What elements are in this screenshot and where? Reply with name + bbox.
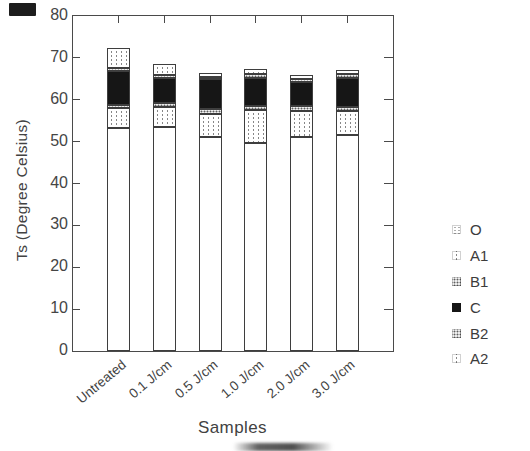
bar-0-1-j-cm: [153, 16, 176, 351]
bar-segment-a1: [199, 114, 222, 136]
bar-segment-b2: [153, 75, 176, 78]
y-tick: [73, 99, 80, 100]
y-tick: [384, 141, 393, 142]
bar-segment-c: [153, 78, 176, 103]
bar-segment-a1: [336, 111, 359, 135]
x-category-label: 3.0 J/cm: [309, 357, 358, 401]
y-tick: [73, 267, 80, 268]
bar-segment-b2: [336, 74, 359, 78]
y-tick-label: 70: [50, 48, 68, 66]
legend-item-a2: A2: [452, 346, 488, 372]
bar-segment-o: [107, 128, 130, 351]
bar-untreated: [107, 16, 130, 351]
bar-segment-c: [199, 79, 222, 109]
y-tick: [73, 141, 80, 142]
y-tick-label: 20: [50, 257, 68, 275]
legend-label: B1: [470, 273, 488, 290]
bar-segment-a2: [290, 75, 313, 79]
plot-area: [72, 15, 394, 352]
y-tick: [73, 183, 80, 184]
legend-swatch-a2: [452, 354, 461, 363]
bar-segment-b1: [290, 106, 313, 110]
bar-1-0-j-cm: [244, 16, 267, 351]
legend-swatch-o: [452, 225, 461, 234]
legend-item-b1: B1: [452, 269, 488, 295]
x-category-label: 2.0 J/cm: [263, 357, 312, 401]
bar-segment-c: [244, 78, 267, 106]
y-tick-label: 0: [59, 341, 68, 359]
y-tick: [73, 225, 80, 226]
x-axis-title: Samples: [160, 418, 305, 438]
bar-segment-a1: [290, 111, 313, 137]
legend-label: A1: [470, 247, 488, 264]
bar-segment-b2: [199, 77, 222, 80]
legend-swatch-c: [452, 303, 461, 312]
bar-2-0-j-cm: [290, 16, 313, 351]
bar-segment-b1: [107, 105, 130, 108]
y-tick-label: 60: [50, 90, 68, 108]
legend-swatch-a1: [452, 251, 461, 260]
x-category-label: 0.5 J/cm: [172, 357, 221, 401]
bar-segment-o: [244, 143, 267, 351]
bar-segment-b1: [336, 107, 359, 111]
bar-segment-c: [336, 78, 359, 107]
y-tick: [73, 57, 80, 58]
y-axis-title: Ts (Degree Celsius): [13, 119, 31, 261]
y-tick: [384, 267, 393, 268]
bar-segment-a2: [244, 69, 267, 74]
legend-label: A2: [470, 350, 488, 367]
y-tick-label: 40: [50, 174, 68, 192]
legend-item-b2: B2: [452, 320, 488, 346]
legend-label: B2: [470, 325, 488, 342]
bar-segment-a2: [107, 48, 130, 68]
bar-3-0-j-cm: [336, 16, 359, 351]
legend-label: O: [470, 221, 482, 238]
bar-segment-o: [199, 137, 222, 351]
bar-segment-b2: [244, 74, 267, 77]
bar-segment-c: [107, 71, 130, 105]
legend-item-a1: A1: [452, 243, 488, 269]
scan-artifact-top-left: [9, 3, 36, 16]
legend-item-c: C: [452, 294, 488, 320]
bar-segment-b1: [199, 109, 222, 114]
bar-segment-a1: [244, 110, 267, 143]
y-tick: [384, 183, 393, 184]
bar-segment-b2: [290, 79, 313, 82]
y-tick: [384, 225, 393, 226]
scan-artifact-bottom-smudge: [233, 443, 333, 451]
legend-swatch-b2: [452, 329, 461, 338]
bar-0-5-j-cm: [199, 16, 222, 351]
x-category-label: 0.1 J/cm: [126, 357, 175, 401]
bar-segment-a2: [336, 70, 359, 73]
y-tick-label: 80: [50, 6, 68, 24]
legend-item-o: O: [452, 217, 488, 243]
bar-segment-c: [290, 82, 313, 107]
y-tick: [73, 309, 80, 310]
legend-swatch-b1: [452, 277, 461, 286]
bar-segment-o: [153, 127, 176, 351]
bar-segment-a2: [199, 73, 222, 76]
y-tick: [384, 309, 393, 310]
bar-segment-b2: [107, 68, 130, 71]
y-tick-label: 30: [50, 215, 68, 233]
bar-segment-o: [290, 137, 313, 351]
y-tick: [384, 99, 393, 100]
bar-segment-a2: [153, 64, 176, 74]
y-tick: [384, 57, 393, 58]
x-category-label: 1.0 J/cm: [218, 357, 267, 401]
y-tick-label: 10: [50, 299, 68, 317]
bar-segment-b1: [244, 106, 267, 110]
y-tick-label: 50: [50, 132, 68, 150]
bar-segment-a1: [153, 107, 176, 126]
legend: OA1B1CB2A2: [452, 217, 488, 372]
bar-segment-o: [336, 135, 359, 351]
bar-segment-b1: [153, 103, 176, 108]
legend-label: C: [470, 299, 481, 316]
x-category-label: Untreated: [74, 357, 129, 407]
bar-segment-a1: [107, 108, 130, 128]
